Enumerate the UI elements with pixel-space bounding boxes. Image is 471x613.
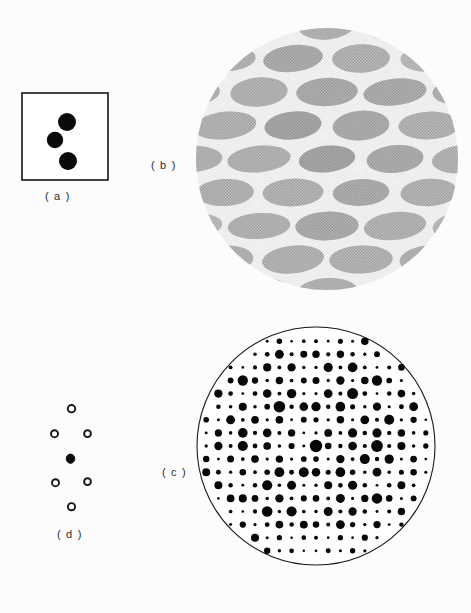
diffraction-spot bbox=[241, 510, 244, 513]
diffraction-spot bbox=[229, 431, 233, 435]
diffraction-spot bbox=[288, 429, 295, 436]
diffraction-spot bbox=[336, 376, 344, 384]
diffraction-spot bbox=[252, 495, 259, 502]
diffraction-spot bbox=[275, 467, 285, 477]
diffraction-spot bbox=[326, 523, 330, 527]
diffraction-spot bbox=[327, 340, 330, 343]
diffraction-spot bbox=[229, 471, 232, 474]
reciprocal-reflection-open bbox=[84, 479, 91, 486]
diffraction-spot bbox=[398, 508, 405, 515]
diffraction-spot bbox=[214, 481, 222, 489]
diffraction-spot bbox=[360, 454, 370, 464]
diffraction-spot bbox=[361, 495, 368, 502]
diffraction-spot bbox=[384, 415, 394, 425]
diffraction-spot bbox=[263, 389, 272, 398]
diffraction-spot bbox=[277, 365, 281, 369]
diffraction-spot bbox=[376, 366, 379, 369]
diffraction-spot bbox=[424, 471, 427, 474]
diffraction-spot bbox=[363, 405, 367, 409]
diffraction-spot bbox=[289, 443, 295, 449]
reciprocal-reflection-open bbox=[52, 479, 59, 486]
diffraction-spot bbox=[252, 377, 258, 383]
diffraction-spot bbox=[274, 401, 286, 413]
diffraction-spot bbox=[409, 402, 418, 411]
diffraction-spot bbox=[388, 523, 391, 526]
diffraction-spot bbox=[202, 468, 210, 476]
diffraction-spot bbox=[227, 456, 234, 463]
diffraction-spot bbox=[289, 522, 294, 527]
diffraction-spot bbox=[387, 444, 391, 448]
diffraction-spot bbox=[399, 404, 404, 409]
diffraction-spot bbox=[278, 444, 282, 448]
diffraction-spot bbox=[388, 405, 391, 408]
diffraction-spot bbox=[228, 483, 232, 487]
diffraction-spot bbox=[363, 431, 368, 436]
diffraction-spot bbox=[351, 457, 355, 461]
diffraction-spot bbox=[229, 405, 233, 409]
diffraction-spot bbox=[314, 431, 317, 434]
diffraction-spot bbox=[336, 494, 345, 503]
diffraction-spot bbox=[363, 470, 367, 474]
diffraction-spot bbox=[400, 379, 403, 382]
diffraction-spot bbox=[326, 548, 331, 553]
diffraction-spot bbox=[314, 366, 317, 369]
diffraction-spot bbox=[400, 497, 403, 500]
diffraction-spot bbox=[263, 442, 271, 450]
diffraction-spot bbox=[424, 418, 427, 421]
diffraction-spot bbox=[278, 510, 282, 514]
diffraction-spot bbox=[324, 481, 332, 489]
diffraction-spot bbox=[215, 429, 222, 436]
reciprocal-reflection-open bbox=[84, 431, 91, 438]
diffraction-spot bbox=[203, 456, 209, 462]
diffraction-spot bbox=[387, 483, 392, 488]
diffraction-spot bbox=[361, 337, 369, 345]
diffraction-spot bbox=[347, 388, 358, 399]
diffraction-spot bbox=[228, 391, 233, 396]
diffraction-spot bbox=[264, 404, 270, 410]
diffraction-spot bbox=[251, 534, 259, 542]
diffraction-spot bbox=[276, 377, 283, 384]
diffraction-spot bbox=[314, 339, 318, 343]
diffraction-spot bbox=[412, 483, 416, 487]
diffraction-spot bbox=[362, 535, 368, 541]
diffraction-spot bbox=[375, 418, 379, 422]
diffraction-spot bbox=[310, 440, 322, 452]
diffraction-spot bbox=[423, 443, 428, 448]
diffraction-spot bbox=[363, 444, 367, 448]
diffraction-spot bbox=[337, 351, 344, 358]
diffraction-spot bbox=[376, 392, 379, 395]
diffraction-spot bbox=[338, 444, 342, 448]
diffraction-spot bbox=[412, 431, 416, 435]
diffraction-spot bbox=[385, 454, 394, 463]
diffraction-spot bbox=[374, 351, 380, 357]
diffraction-spot bbox=[289, 405, 293, 409]
diffraction-spot bbox=[314, 536, 318, 540]
diffraction-spot bbox=[362, 391, 367, 396]
diffraction-spot bbox=[289, 470, 294, 475]
diffraction-spot bbox=[302, 392, 305, 395]
diffraction-spot bbox=[229, 510, 233, 514]
diffraction-spot bbox=[301, 495, 307, 501]
diffraction-spot bbox=[217, 458, 220, 461]
reciprocal-origin-filled bbox=[66, 454, 74, 463]
diffraction-spot bbox=[386, 495, 393, 502]
diffraction-spot bbox=[290, 536, 293, 539]
diffraction-spot bbox=[299, 402, 308, 411]
diffraction-spot bbox=[325, 443, 332, 450]
diffraction-spot bbox=[302, 510, 306, 514]
diffraction-spot bbox=[336, 520, 345, 529]
diffraction-spot bbox=[327, 536, 330, 539]
diffraction-spot bbox=[397, 481, 405, 489]
diffraction-spot bbox=[264, 469, 270, 475]
reciprocal-reflection-open bbox=[67, 503, 74, 510]
diffraction-spot bbox=[423, 430, 428, 435]
diffraction-spot bbox=[287, 506, 297, 516]
diffraction-spot bbox=[360, 415, 369, 424]
panel-c bbox=[193, 323, 439, 569]
diffraction-spot bbox=[350, 352, 355, 357]
diffraction-spot bbox=[410, 417, 416, 423]
diffraction-spot bbox=[217, 418, 220, 421]
motif-atom-dot bbox=[59, 152, 77, 170]
diffraction-spot bbox=[253, 523, 256, 526]
diffraction-spot bbox=[376, 510, 379, 513]
